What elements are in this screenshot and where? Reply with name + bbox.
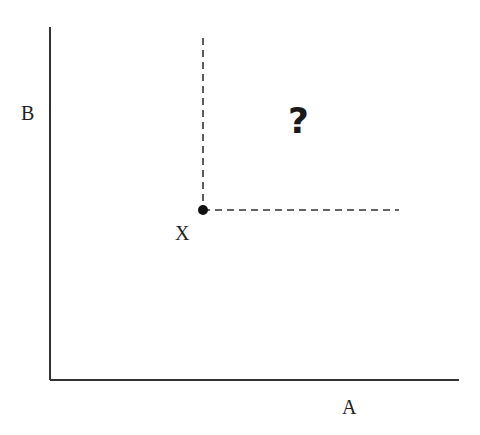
diagram-canvas <box>0 0 480 435</box>
y-axis-label: B <box>21 102 34 125</box>
question-mark-label: ? <box>288 100 309 141</box>
point-x-label: X <box>175 222 189 245</box>
point-x-marker <box>198 205 208 215</box>
x-axis-label: A <box>342 396 356 419</box>
